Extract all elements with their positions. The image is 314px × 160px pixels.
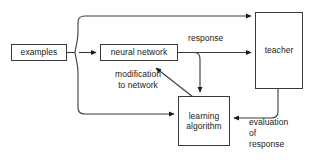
node-teacher-label: teacher <box>265 45 294 55</box>
node-teacher: teacher <box>255 12 303 89</box>
node-neural-network-label: neural network <box>111 47 167 57</box>
node-neural-network: neural network <box>100 44 178 61</box>
node-examples: examples <box>11 44 67 61</box>
edge-label-response: response <box>188 33 223 44</box>
edge-response-to-learning <box>194 53 200 93</box>
edge-split-up <box>75 16 85 53</box>
node-learning-algorithm: learning algorithm <box>178 96 230 146</box>
edge-split-down <box>75 53 85 115</box>
node-examples-label: examples <box>21 47 58 57</box>
diagram-canvas: examples neural network teacher learning… <box>0 0 314 160</box>
edge-teacher-to-learning <box>234 89 278 118</box>
edge-label-evaluation: evaluation of response <box>249 117 288 150</box>
edge-label-modification: modification to network <box>96 69 180 91</box>
node-learning-algorithm-label: learning algorithm <box>186 111 221 132</box>
